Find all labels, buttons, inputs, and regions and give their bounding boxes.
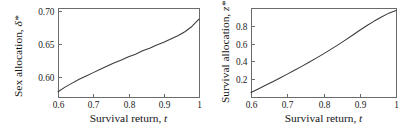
y-tick-label: 0.70 <box>38 7 55 17</box>
data-curve <box>58 19 199 92</box>
panel-sex-allocation: 0.60.70.80.910.600.650.70 Survival retur… <box>0 0 207 133</box>
y-tick-label: 0.60 <box>38 73 55 83</box>
y-tick-label: 0.4 <box>236 57 248 67</box>
y-axis-title-right: Survival allocation, z* <box>220 1 231 103</box>
x-tick-label: 0.7 <box>282 100 294 110</box>
x-axis-title-right-symbol: t <box>359 112 362 124</box>
x-tick-label: 0.6 <box>246 100 258 110</box>
y-axis-title-right-symbol: z* <box>219 1 231 11</box>
y-axis-title-left-text: Sex allocation, <box>12 29 24 97</box>
x-tick-label: 0.7 <box>88 100 100 110</box>
panel-survival-allocation: 0.60.70.80.910.20.40.60.8 Survival retur… <box>207 0 415 133</box>
x-tick-label: 1 <box>197 100 202 110</box>
x-tick-label: 1 <box>394 100 399 110</box>
x-axis-title-right-text: Survival return, <box>285 112 357 124</box>
x-tick-label: 0.8 <box>319 100 331 110</box>
x-tick-label: 0.8 <box>124 100 136 110</box>
y-axis-title-left: Sex allocation, δ* <box>13 15 24 97</box>
x-axis-title-left: Survival return, t <box>58 113 199 124</box>
x-axis-title-left-symbol: t <box>164 112 167 124</box>
y-tick-label: 0.6 <box>236 40 248 50</box>
x-tick-label: 0.9 <box>355 100 367 110</box>
x-tick-label: 0.6 <box>53 100 65 110</box>
y-tick-label: 0.8 <box>236 22 248 32</box>
x-tick-label: 0.9 <box>159 100 171 110</box>
x-axis-title-right: Survival return, t <box>251 113 396 124</box>
y-tick-label: 0.2 <box>236 75 248 85</box>
y-axis-title-left-symbol: δ* <box>12 15 24 26</box>
data-curve <box>251 10 396 92</box>
y-axis-title-right-text: Survival allocation, <box>219 14 231 103</box>
y-tick-label: 0.65 <box>38 40 55 50</box>
x-axis-title-left-text: Survival return, <box>90 112 162 124</box>
figure-two-panel-line-charts: 0.60.70.80.910.600.650.70 Survival retur… <box>0 0 415 133</box>
plot-frame <box>59 9 200 98</box>
